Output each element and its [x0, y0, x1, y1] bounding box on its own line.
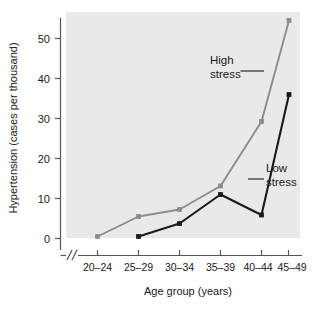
low-stress-point-30-34 — [177, 221, 182, 226]
y-tick-label-30: 30 — [38, 113, 50, 125]
high-stress-point-40-44 — [259, 119, 264, 124]
low-stress-point-45-49 — [287, 92, 292, 97]
chart-figure: 50 40 30 20 10 0 Hypertension (cases per… — [0, 0, 316, 313]
y-tick-label-10: 10 — [38, 193, 50, 205]
low-stress-label-line2: stress — [266, 176, 297, 188]
low-stress-point-25-29 — [136, 234, 141, 239]
x-tick-label-40-44: 40–44 — [243, 261, 272, 273]
high-stress-label-line1: High — [210, 54, 234, 66]
high-stress-point-20-24 — [95, 234, 100, 239]
low-stress-point-40-44 — [259, 213, 264, 218]
high-stress-point-35-39 — [218, 184, 223, 189]
high-stress-point-25-29 — [136, 214, 141, 219]
y-tick-label-20: 20 — [38, 153, 50, 165]
x-tick-label-20-24: 20–24 — [83, 261, 112, 273]
low-stress-point-35-39 — [218, 192, 223, 197]
x-tick-label-25-29: 25–29 — [124, 261, 153, 273]
y-tick-label-0: 0 — [44, 233, 50, 245]
high-stress-label-line2: stress — [210, 68, 241, 80]
hypertension-line-chart: 50 40 30 20 10 0 Hypertension (cases per… — [0, 0, 316, 313]
y-tick-label-40: 40 — [38, 73, 50, 85]
x-axis-title: Age group (years) — [144, 285, 232, 297]
x-tick-label-30-34: 30–34 — [165, 261, 194, 273]
high-stress-point-45-49 — [287, 18, 292, 23]
y-axis-title: Hypertension (cases per thousand) — [7, 42, 19, 213]
x-tick-label-45-49: 45–49 — [277, 261, 306, 273]
x-tick-label-35-39: 35–39 — [206, 261, 235, 273]
y-tick-label-50: 50 — [38, 33, 50, 45]
high-stress-point-30-34 — [177, 207, 182, 212]
low-stress-label-line1: Low — [266, 162, 288, 174]
